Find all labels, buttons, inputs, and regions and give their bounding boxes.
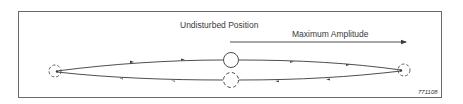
- undisturbed-circle-icon: [224, 53, 239, 68]
- maximum-amplitude-label: Maximum Amplitude: [292, 30, 369, 39]
- arrow-right-icon: [290, 61, 294, 63]
- figure-id-label: 771108: [418, 89, 438, 95]
- undisturbed-position-label: Undisturbed Position: [180, 21, 258, 30]
- arrow-left-icon: [119, 78, 123, 80]
- oscillation-diagram: [0, 0, 463, 104]
- center-dashed-circle-icon: [224, 73, 239, 88]
- arrow-left-icon: [171, 80, 175, 81]
- arrow-left-icon: [275, 81, 279, 83]
- arrow-left-icon: [326, 79, 330, 81]
